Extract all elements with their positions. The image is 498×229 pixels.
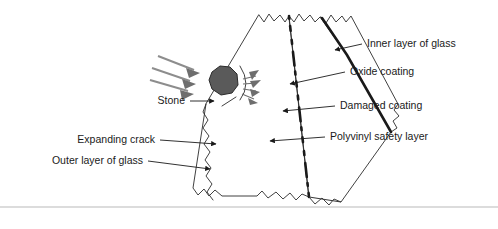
glass-damage-diagram: Stone Expanding crack Outer layer of gla… xyxy=(0,0,498,229)
impact-arrow-3-shaft xyxy=(150,80,188,91)
label-damaged-coating: Damaged coating xyxy=(283,99,422,111)
label-expanding-crack: Expanding crack xyxy=(77,133,216,145)
expanding-crack-jagged-edge xyxy=(203,104,213,200)
label-damaged-coating-text: Damaged coating xyxy=(340,99,422,111)
label-outer-layer-of-glass-leader xyxy=(148,161,210,169)
label-outer-layer-of-glass: Outer layer of glass xyxy=(52,154,210,169)
label-polyvinyl-safety-layer-text: Polyvinyl safety layer xyxy=(330,130,429,142)
label-expanding-crack-leader xyxy=(160,140,216,144)
label-inner-layer-of-glass: Inner layer of glass xyxy=(335,37,456,50)
right-label-group: Inner layer of glass Oxide coating Damag… xyxy=(270,37,456,142)
label-oxide-coating-leader xyxy=(290,72,345,84)
burst-wedge-3 xyxy=(250,89,260,97)
figure-root: Stone Expanding crack Outer layer of gla… xyxy=(0,0,498,229)
label-polyvinyl-safety-layer-leader xyxy=(270,137,325,141)
left-label-group: Stone Expanding crack Outer layer of gla… xyxy=(52,94,216,169)
label-oxide-coating-text: Oxide coating xyxy=(350,65,414,77)
label-inner-layer-of-glass-text: Inner layer of glass xyxy=(367,37,456,49)
impact-arrow-1-shaft xyxy=(158,56,194,70)
label-damaged-coating-leader xyxy=(283,106,335,111)
impact-arrow-2-shaft xyxy=(152,68,190,81)
stone-shape xyxy=(209,66,238,95)
label-stone-text: Stone xyxy=(158,94,186,106)
burst-wedge-2 xyxy=(250,80,261,88)
label-polyvinyl-safety-layer: Polyvinyl safety layer xyxy=(270,130,429,142)
label-expanding-crack-text: Expanding crack xyxy=(77,133,155,145)
label-outer-layer-of-glass-text: Outer layer of glass xyxy=(52,154,143,166)
damaged-coating-line xyxy=(289,16,309,197)
label-oxide-coating: Oxide coating xyxy=(290,65,414,84)
impact-cone-lower-edge xyxy=(222,97,236,106)
burst-wedge-1 xyxy=(249,70,259,80)
